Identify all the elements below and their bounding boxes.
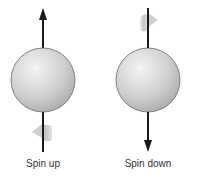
spin-up-label: Spin up	[3, 158, 83, 169]
spin-down-label: Spin down	[108, 158, 188, 169]
spin-up-sphere	[11, 48, 75, 112]
rotation-curl-icon	[32, 112, 52, 152]
spin-down-sphere	[116, 48, 180, 112]
arrow-up-icon	[39, 8, 47, 20]
spin-down-figure	[116, 8, 180, 152]
spin-up-figure	[11, 8, 75, 152]
